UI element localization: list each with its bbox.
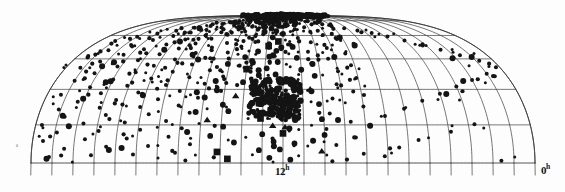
data-point-circle: [291, 113, 296, 118]
data-point-circle: [83, 76, 87, 80]
data-point-circle: [190, 52, 196, 58]
data-point-circle: [262, 29, 268, 35]
data-point-circle: [256, 28, 260, 32]
data-point-circle: [220, 124, 226, 130]
data-point-circle: [221, 27, 225, 31]
data-point-circle: [131, 153, 135, 157]
data-point-circle: [196, 37, 200, 41]
data-point-circle: [451, 124, 454, 127]
data-point-circle: [240, 12, 246, 18]
data-point-circle: [235, 26, 238, 29]
data-point-circle: [210, 60, 213, 63]
data-point-circle: [103, 79, 109, 85]
data-point-circle: [75, 106, 78, 109]
data-point-circle: [310, 124, 313, 127]
data-point-circle: [60, 113, 66, 119]
data-point-circle: [151, 38, 155, 42]
data-point-circle: [109, 41, 113, 45]
data-point-circle: [286, 126, 292, 132]
data-point-circle: [292, 94, 295, 97]
data-point-circle: [220, 102, 226, 108]
data-point-circle: [358, 67, 361, 70]
data-point-circle: [246, 23, 250, 27]
data-point-circle: [297, 50, 300, 53]
data-point-circle: [221, 70, 224, 73]
data-point-circle: [202, 94, 208, 100]
data-point-circle: [250, 15, 252, 17]
data-point-circle: [227, 139, 230, 142]
data-point-circle: [200, 76, 203, 79]
data-point-circle: [302, 25, 306, 29]
data-point-circle: [292, 144, 295, 147]
data-point-circle: [97, 129, 101, 133]
data-point-circle: [253, 83, 259, 89]
data-point-circle: [335, 82, 339, 86]
data-point-circle: [138, 128, 142, 132]
data-point-circle: [367, 123, 373, 129]
data-point-circle: [44, 156, 50, 162]
data-point-circle: [321, 34, 324, 37]
data-point-triangle: [232, 93, 239, 99]
data-point-circle: [287, 95, 291, 99]
ra-label-12h-value: 12: [275, 165, 285, 177]
data-point-circle: [235, 47, 239, 51]
data-point-circle: [186, 72, 189, 75]
data-point-circle: [326, 99, 329, 102]
data-point-circle: [331, 44, 334, 47]
data-point-circle: [450, 55, 456, 61]
data-point-circle: [318, 14, 322, 18]
data-point-circle: [421, 43, 425, 47]
data-point-circle: [166, 78, 170, 82]
data-point-circle: [297, 39, 301, 43]
data-point-circle: [427, 136, 430, 139]
data-point-circle: [93, 71, 97, 75]
data-point-circle: [316, 101, 322, 107]
data-point-circle: [180, 126, 184, 130]
data-point-circle: [370, 31, 374, 35]
data-point-circle: [88, 85, 92, 89]
data-point-circle: [227, 56, 231, 60]
data-point-circle: [177, 47, 181, 51]
data-point-circle: [235, 83, 239, 87]
data-point-circle: [383, 154, 387, 158]
data-point-circle: [324, 127, 328, 131]
data-point-circle: [65, 63, 68, 66]
data-point-circle: [188, 142, 192, 146]
data-point-circle: [460, 78, 466, 84]
data-point-circle: [317, 111, 321, 115]
data-point-circle: [271, 31, 274, 34]
data-point-circle: [248, 70, 252, 74]
data-point-circle: [111, 62, 114, 65]
data-point-circle: [88, 66, 91, 69]
data-point-circle: [158, 52, 162, 56]
data-point-circle: [189, 46, 193, 50]
data-point-circle: [334, 143, 338, 147]
data-point-circle: [234, 42, 238, 46]
data-point-circle: [134, 70, 138, 74]
data-point-circle: [166, 28, 169, 31]
data-point-circle: [282, 96, 288, 102]
data-point-circle: [212, 155, 216, 159]
data-point-circle: [59, 153, 63, 157]
data-point-circle: [352, 42, 358, 48]
data-point-circle: [241, 39, 245, 43]
data-point-circle: [59, 93, 63, 97]
data-point-circle: [352, 135, 356, 139]
data-point-circle: [259, 131, 265, 137]
data-point-circle: [319, 116, 325, 122]
data-point-circle: [264, 65, 270, 71]
data-point-circle: [41, 126, 44, 129]
data-point-circle: [266, 14, 269, 17]
data-point-circle: [487, 65, 490, 68]
data-point-circle: [116, 64, 120, 68]
data-point-circle: [494, 65, 498, 69]
data-point-circle: [439, 48, 443, 52]
data-point-circle: [168, 94, 171, 97]
data-point-circle: [237, 64, 240, 67]
data-point-circle: [187, 75, 191, 79]
data-point-circle: [336, 69, 340, 73]
data-point-circle: [156, 126, 159, 129]
data-point-circle: [397, 146, 401, 150]
data-point-circle: [131, 135, 134, 138]
data-point-circle: [309, 61, 315, 67]
